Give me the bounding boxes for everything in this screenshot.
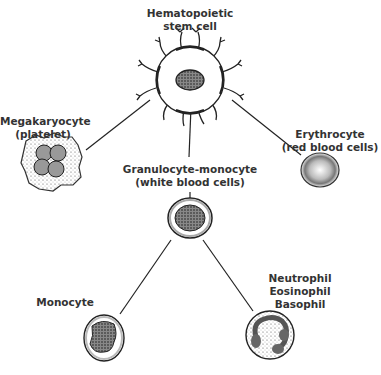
erythrocyte-label: Erythrocyte (red blood cells) [280, 128, 380, 154]
stem-cell-nucleus [176, 70, 204, 90]
edge-granulocyte-monocyte [120, 240, 171, 314]
edge-stem-megakaryocyte [86, 100, 150, 150]
label-line: Neutrophil [260, 272, 340, 285]
granulocytes-label: Neutrophil Eosinophil Basophil [260, 272, 340, 311]
label-line: Granulocyte-monocyte [120, 163, 260, 176]
label-line: Megakaryocyte [0, 115, 86, 128]
granulocyte-illustration [246, 311, 294, 359]
erythrocyte-illustration [301, 153, 339, 187]
label-line: (white blood cells) [120, 176, 260, 189]
monocyte-label: Monocyte [25, 296, 105, 309]
label-line: stem cell [140, 20, 240, 33]
stem-cell-illustration [136, 28, 244, 126]
label-line: Hematopoietic [140, 7, 240, 20]
megakaryocyte-illustration [21, 133, 82, 191]
label-line: Monocyte [25, 296, 105, 309]
label-line: (red blood cells) [280, 141, 380, 154]
stem-cell-label: Hematopoietic stem cell [140, 7, 240, 33]
label-line: Basophil [260, 298, 340, 311]
label-line: Eosinophil [260, 285, 340, 298]
label-line: (platelet) [0, 128, 86, 141]
edge-granulocyte-granulocytes [203, 240, 253, 311]
megakaryocyte-label: Megakaryocyte (platelet) [0, 115, 86, 141]
monocyte-illustration [84, 315, 124, 361]
label-line: Erythrocyte [280, 128, 380, 141]
granulocyte-monocyte-illustration [168, 198, 212, 238]
granulocyte-monocyte-label: Granulocyte-monocyte (white blood cells) [120, 163, 260, 189]
